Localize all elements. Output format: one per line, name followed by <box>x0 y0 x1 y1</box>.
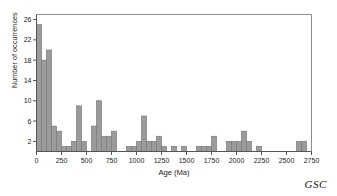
histogram-bar <box>182 146 187 151</box>
x-tick-label: 250 <box>56 157 68 164</box>
histogram-bar <box>132 146 137 151</box>
histogram-bar <box>202 146 207 151</box>
y-tick-label: 18 <box>24 57 32 64</box>
histogram-bar <box>302 141 307 151</box>
histogram-bar <box>62 146 67 151</box>
histogram-bar <box>72 141 77 151</box>
histogram-bar <box>232 141 237 151</box>
x-tick-label: 1750 <box>204 157 220 164</box>
x-tick-label: 2500 <box>279 157 295 164</box>
y-tick-label: 26 <box>24 16 32 23</box>
x-tick-label: 1500 <box>179 157 195 164</box>
histogram-bar <box>142 116 147 152</box>
histogram-bar <box>247 141 252 151</box>
histogram-bar <box>207 146 212 151</box>
histogram-bar <box>47 50 52 151</box>
x-tick-label: 750 <box>106 157 118 164</box>
x-tick-label: 2250 <box>254 157 270 164</box>
x-tick-label: 1250 <box>154 157 170 164</box>
histogram-bar <box>112 131 117 151</box>
histogram-figure: Number of occurrences Age (Ma) 025050075… <box>0 0 337 196</box>
histogram-bar <box>127 146 132 151</box>
y-axis-label: Number of occurrences <box>10 12 19 88</box>
x-tick-label: 0 <box>35 157 39 164</box>
histogram-bar <box>52 126 57 151</box>
histogram-bar <box>157 136 162 151</box>
y-tick-label: 6 <box>28 118 32 125</box>
y-tick-label: 14 <box>24 77 32 84</box>
y-tick-label: 10 <box>24 97 32 104</box>
histogram-bar <box>227 141 232 151</box>
histogram-bar <box>297 141 302 151</box>
x-tick-label: 2000 <box>229 157 245 164</box>
histogram-bar <box>197 146 202 151</box>
histogram-bar <box>82 141 87 151</box>
x-tick-label: 2750 <box>304 157 320 164</box>
y-tick-label: 2 <box>28 138 32 145</box>
x-tick-label: 1000 <box>129 157 145 164</box>
histogram-bar <box>42 60 47 151</box>
y-tick-label: 22 <box>24 36 32 43</box>
histogram-bar <box>172 146 177 151</box>
histogram-bar <box>257 146 262 151</box>
histogram-bar <box>67 146 72 151</box>
histogram-bar <box>77 106 82 152</box>
histogram-bar <box>107 136 112 151</box>
histogram-bar <box>147 141 152 151</box>
histogram-bar <box>37 25 42 152</box>
histogram-bar <box>242 131 247 151</box>
histogram-bar <box>97 101 102 152</box>
histogram-bar <box>137 141 142 151</box>
histogram-bar <box>162 146 167 151</box>
histogram-bar <box>237 141 242 151</box>
gsc-credit: GSC <box>304 178 327 190</box>
histogram-bar <box>152 141 157 151</box>
histogram-bar <box>57 131 62 151</box>
histogram-bar <box>92 126 97 151</box>
x-axis-label: Age (Ma) <box>158 168 189 177</box>
histogram-bar <box>212 136 217 151</box>
histogram-bar <box>102 136 107 151</box>
x-tick-label: 500 <box>81 157 93 164</box>
